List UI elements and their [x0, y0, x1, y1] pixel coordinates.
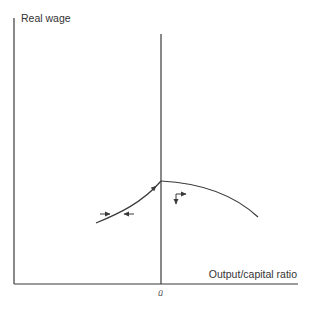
- left-rising-curve: [96, 181, 161, 223]
- x-axis-label: Output/capital ratio: [209, 268, 297, 280]
- u-bar-label: ū: [158, 288, 163, 298]
- y-axis-label: Real wage: [21, 12, 71, 24]
- arrow-along-curve-icon: [150, 186, 156, 192]
- phase-diagram: [0, 0, 313, 312]
